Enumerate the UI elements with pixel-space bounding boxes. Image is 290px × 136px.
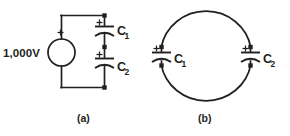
capacitor-c1-panel-a-subscript: 1 (125, 31, 130, 41)
node-top-right-a (102, 13, 106, 17)
c1a-plus-icon (97, 20, 103, 26)
source-plus-icon (58, 30, 64, 36)
panel-b: C 1 C 2 (b) (152, 11, 276, 124)
panel-b-caption: (b) (198, 112, 211, 124)
node-mid-right-a (102, 45, 106, 49)
node-c2-bottom-b (248, 63, 252, 67)
voltage-source-symbol (48, 39, 75, 66)
c2a-plus-icon (97, 52, 103, 58)
loop-arc-top-b (161, 11, 251, 47)
node-c2-top-b (248, 45, 252, 49)
node-c1-bottom-b (159, 63, 163, 67)
node-c1-top-b (159, 45, 163, 49)
circuit-figure: 1,000V C 1 C 2 (0, 0, 290, 136)
figure-canvas: 1,000V C 1 C 2 (0, 0, 290, 136)
capacitor-c2-panel-a-subscript: 2 (125, 67, 130, 77)
capacitor-c2-panel-b-subscript: 2 (271, 59, 276, 69)
c2b-plus-icon (243, 46, 249, 52)
source-voltage-label: 1,000V (3, 47, 40, 59)
c1b-plus-icon (154, 46, 160, 52)
panel-a: 1,000V C 1 C 2 (3, 13, 130, 124)
node-bottom-right-a (102, 85, 106, 89)
capacitor-c1-panel-b-subscript: 1 (182, 59, 187, 69)
loop-arc-bottom-b (161, 65, 251, 101)
panel-a-caption: (a) (77, 112, 90, 124)
